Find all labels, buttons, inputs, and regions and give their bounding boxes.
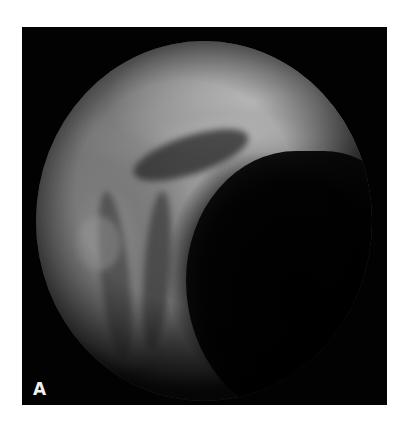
scope-vignette bbox=[36, 41, 372, 401]
endoscopy-figure-panel: A bbox=[22, 27, 387, 405]
endoscopic-view bbox=[36, 41, 372, 401]
panel-label: A bbox=[33, 381, 46, 398]
